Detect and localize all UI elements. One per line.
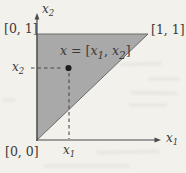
corner-label-origin: [0, 0] [5,146,39,159]
x1-axis-label: x1 [166,132,178,147]
corner-label-top-left: [0, 1] [4,23,38,36]
corner-label-top-right: [1, 1] [151,24,185,37]
point-label: x = [x1, x2] [60,45,131,60]
scanned-book-page: x2 x1 [0, 1] [1, 1] [0, 0] x2 x1 x = [x1… [0,0,186,173]
x2-tick-label: x2 [12,61,24,76]
x2-axis-label: x2 [42,3,54,18]
point-marker [65,65,71,71]
x1-axis-arrowhead-icon [155,138,162,143]
x2-axis-arrowhead-icon [35,13,40,20]
x1-tick-label: x1 [63,144,75,159]
